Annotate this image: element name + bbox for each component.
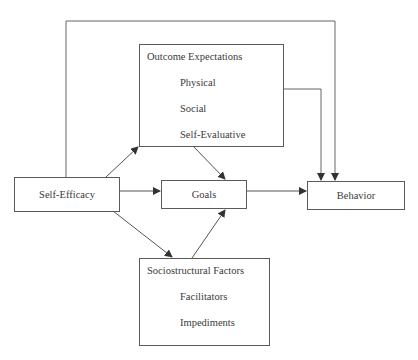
outcome-item-self-evaluative: Self-Evaluative — [180, 129, 245, 140]
edge-self-efficacy-to-outcome — [106, 147, 138, 177]
edge-self-efficacy-to-sociostructural — [113, 211, 172, 257]
sociostructural-factors-title: Sociostructural Factors — [147, 265, 244, 276]
edge-sociostructural-to-goals — [192, 210, 225, 258]
outcome-expectations-title: Outcome Expectations — [147, 51, 242, 62]
edge-outcome-to-goals — [193, 146, 225, 179]
outcome-item-social: Social — [180, 103, 206, 114]
self-efficacy-box: Self-Efficacy — [14, 177, 120, 212]
sociostructural-item-facilitators: Facilitators — [180, 291, 227, 302]
sociostructural-factors-box: Sociostructural Factors Facilitators Imp… — [139, 258, 270, 346]
goals-label: Goals — [192, 189, 217, 200]
outcome-item-physical: Physical — [180, 77, 216, 88]
goals-box: Goals — [161, 180, 247, 209]
outcome-expectations-box: Outcome Expectations Physical Social Sel… — [139, 44, 284, 147]
behavior-box: Behavior — [307, 181, 405, 210]
edge-outcome-to-behavior — [283, 89, 321, 180]
self-efficacy-label: Self-Efficacy — [39, 189, 95, 200]
behavior-label: Behavior — [337, 190, 376, 201]
sociostructural-item-impediments: Impediments — [180, 317, 235, 328]
